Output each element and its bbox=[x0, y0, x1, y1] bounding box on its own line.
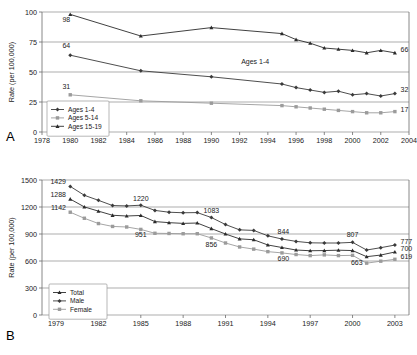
data-point-square bbox=[153, 232, 156, 235]
x-tick-label: 2003 bbox=[387, 319, 403, 328]
data-point-square bbox=[58, 308, 61, 311]
x-tick-label: 1988 bbox=[175, 319, 191, 328]
data-point-diamond bbox=[96, 198, 100, 202]
series-line-male bbox=[70, 186, 395, 250]
data-label: 663 bbox=[351, 259, 363, 266]
data-point-square bbox=[294, 105, 297, 108]
x-tick-label: 1996 bbox=[288, 136, 304, 145]
data-point-square bbox=[139, 99, 142, 102]
data-point-diamond bbox=[266, 234, 270, 238]
data-point-diamond bbox=[351, 93, 355, 97]
data-point-diamond bbox=[280, 82, 284, 86]
data-point-square bbox=[323, 108, 326, 111]
legend-label: Female bbox=[70, 306, 92, 313]
x-tick-label: 1984 bbox=[119, 136, 135, 145]
chart-panel-a: A 02550751001978198019821984198619881990… bbox=[0, 0, 417, 168]
x-tick-label: 1998 bbox=[316, 136, 332, 145]
data-point-square bbox=[393, 110, 396, 113]
data-label: 844 bbox=[278, 228, 290, 235]
data-label: Ages 1-4 bbox=[241, 58, 269, 66]
data-point-diamond bbox=[379, 246, 383, 250]
data-label: 856 bbox=[206, 241, 218, 248]
legend-label: Ages 1-4 bbox=[68, 106, 95, 114]
data-point-square bbox=[351, 110, 354, 113]
data-label: 31 bbox=[62, 83, 70, 90]
data-point-square bbox=[393, 258, 396, 261]
series-markers-ages-15-19 bbox=[68, 12, 397, 54]
data-point-diamond bbox=[224, 223, 228, 227]
data-label: 700 bbox=[401, 245, 413, 252]
data-label: 32 bbox=[401, 86, 409, 93]
data-point-square bbox=[280, 104, 283, 107]
data-point-diamond bbox=[393, 243, 397, 247]
data-label: 1142 bbox=[51, 204, 66, 211]
data-point-diamond bbox=[238, 228, 242, 232]
data-point-diamond bbox=[167, 210, 171, 214]
data-point-square bbox=[323, 253, 326, 256]
data-label: 1429 bbox=[50, 178, 66, 185]
x-tick-label: 1988 bbox=[175, 136, 191, 145]
data-point-square bbox=[111, 225, 114, 228]
x-tick-label: 1982 bbox=[90, 319, 106, 328]
data-point-diamond bbox=[308, 88, 312, 92]
data-point-diamond bbox=[351, 240, 355, 244]
data-point-square bbox=[379, 259, 382, 262]
data-point-square bbox=[308, 254, 311, 257]
data-point-diamond bbox=[393, 92, 397, 96]
chart-panel-b: B 03006009001200150019791982198519881991… bbox=[0, 168, 417, 355]
data-point-diamond bbox=[308, 241, 312, 245]
panel-a-letter: A bbox=[6, 129, 15, 144]
legend-label: Ages 5-14 bbox=[68, 114, 98, 122]
data-label: 1083 bbox=[204, 207, 220, 214]
data-point-square bbox=[224, 241, 227, 244]
data-point-diamond bbox=[294, 239, 298, 243]
data-point-diamond bbox=[379, 94, 383, 98]
data-point-diamond bbox=[336, 89, 340, 93]
x-tick-label: 1978 bbox=[34, 136, 50, 145]
data-label: 17 bbox=[401, 106, 409, 113]
x-tick-label: 1991 bbox=[218, 319, 234, 328]
series-markers-ages-1-4 bbox=[68, 53, 397, 98]
data-point-square bbox=[379, 111, 382, 114]
y-tick-label: 0 bbox=[33, 311, 37, 320]
data-point-square bbox=[181, 232, 184, 235]
y-tick-label: 75 bbox=[29, 38, 37, 47]
y-tick-label: 1200 bbox=[21, 203, 37, 212]
x-tick-label: 1994 bbox=[260, 136, 276, 145]
y-tick-label: 1500 bbox=[21, 176, 37, 185]
data-point-diamond bbox=[195, 211, 199, 215]
y-axis-title: Rate (per 100,000) bbox=[7, 42, 16, 102]
data-point-square bbox=[97, 222, 100, 225]
data-point-square bbox=[365, 261, 368, 264]
data-label: 777 bbox=[401, 238, 413, 245]
data-point-diamond bbox=[209, 216, 213, 220]
data-point-square bbox=[210, 102, 213, 105]
x-tick-label: 2004 bbox=[401, 136, 417, 145]
data-label: 98 bbox=[62, 16, 70, 23]
data-point-diamond bbox=[294, 86, 298, 90]
legend-label: Male bbox=[70, 297, 85, 304]
data-point-square bbox=[351, 254, 354, 257]
data-point-triangle bbox=[393, 250, 397, 254]
data-point-diamond bbox=[252, 228, 256, 232]
series-line-ages-15-19 bbox=[70, 14, 395, 52]
data-point-triangle bbox=[68, 197, 72, 201]
x-tick-label: 1979 bbox=[48, 319, 64, 328]
data-point-diamond bbox=[68, 53, 72, 57]
data-label: 690 bbox=[278, 255, 290, 262]
data-point-diamond bbox=[322, 90, 326, 94]
legend-label: Total bbox=[70, 289, 84, 296]
legend-label: Ages 15-19 bbox=[68, 123, 102, 131]
x-tick-label: 1994 bbox=[260, 319, 276, 328]
data-point-square bbox=[365, 111, 368, 114]
x-tick-label: 2002 bbox=[373, 136, 389, 145]
y-tick-label: 50 bbox=[29, 68, 37, 77]
data-point-diamond bbox=[139, 203, 143, 207]
x-tick-label: 1985 bbox=[133, 319, 149, 328]
x-tick-label: 1980 bbox=[62, 136, 78, 145]
series-line-total bbox=[70, 199, 395, 257]
data-point-square bbox=[252, 247, 255, 250]
chart-b-svg: 0300600900120015001979198219851988199119… bbox=[0, 168, 417, 355]
y-tick-label: 300 bbox=[25, 284, 37, 293]
data-point-square bbox=[196, 232, 199, 235]
